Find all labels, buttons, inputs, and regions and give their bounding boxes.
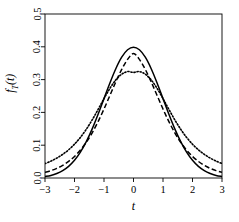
x-axis-tick-label: 2 <box>190 184 195 195</box>
x-axis-tick-label: −3 <box>39 184 50 195</box>
x-axis-title: t <box>132 199 136 213</box>
x-axis-tick-label: −2 <box>69 184 80 195</box>
x-axis-tick-label: 1 <box>160 184 165 195</box>
x-axis-tick-label: 3 <box>219 184 224 195</box>
y-axis-title: fT(t) <box>0 0 24 166</box>
y-axis-tick-label: 0.1 <box>32 139 43 152</box>
y-axis-tick-label: 0.5 <box>32 7 43 20</box>
y-axis-tick-label: 0.4 <box>32 39 43 53</box>
plot-canvas: −3−2−101230.00.10.20.30.40.5t <box>0 0 239 222</box>
density-plot-figure: fT(t) −3−2−101230.00.10.20.30.40.5t <box>0 0 239 222</box>
y-axis-tick-label: 0.3 <box>32 73 43 86</box>
plot-box-border <box>45 14 222 178</box>
series-line-solid <box>45 47 222 176</box>
y-axis-title-text: fT(t) <box>4 73 20 92</box>
series-line-dotted <box>45 72 222 164</box>
x-axis-tick-label: −1 <box>98 184 109 195</box>
y-axis-tick-label: 0.0 <box>32 171 43 184</box>
series-group <box>45 47 222 176</box>
y-axis-tick-label: 0.2 <box>32 106 43 119</box>
series-line-dashed <box>45 53 222 172</box>
x-axis-tick-label: 0 <box>131 184 136 195</box>
